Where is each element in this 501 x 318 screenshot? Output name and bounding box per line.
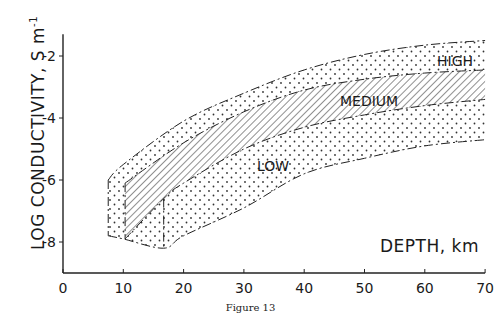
bands bbox=[108, 41, 485, 249]
band-label-high: HIGH bbox=[437, 53, 473, 69]
figure-caption: Figure 13 bbox=[0, 302, 501, 313]
x-tick-label: 40 bbox=[295, 280, 313, 296]
band-label-medium: MEDIUM bbox=[340, 93, 398, 109]
outer-band-fill bbox=[108, 41, 485, 249]
x-tick-label: 70 bbox=[476, 280, 494, 296]
x-tick-label: 10 bbox=[114, 280, 132, 296]
x-tick-label: 20 bbox=[175, 280, 193, 296]
x-tick-label: 30 bbox=[235, 280, 253, 296]
x-tick-label: 50 bbox=[356, 280, 374, 296]
y-axis-label: LOG CONDUCTIVITY, S m-1 bbox=[28, 16, 48, 250]
x-tick-label: 60 bbox=[416, 280, 434, 296]
band-label-low: LOW bbox=[257, 158, 289, 174]
conductivity-depth-chart: 010203040506070-2-4-6-8 LOG CONDUCTIVITY… bbox=[0, 0, 501, 300]
x-axis-label: DEPTH, km bbox=[380, 236, 479, 256]
x-tick-label: 0 bbox=[59, 280, 68, 296]
